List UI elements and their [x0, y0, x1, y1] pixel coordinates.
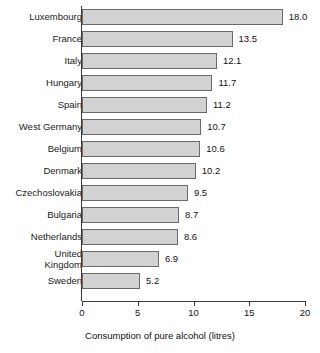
category-label-line: Kingdom [45, 260, 83, 271]
category-label: Italy [0, 50, 82, 72]
bar-value-label: 10.7 [207, 119, 226, 135]
bar-value-label: 12.1 [223, 53, 242, 69]
x-axis-tick-label: 0 [67, 307, 97, 318]
bar-track: 12.1 [82, 53, 320, 69]
category-label: West Germany [0, 116, 82, 138]
bar [82, 119, 201, 135]
bar [82, 229, 178, 245]
bar-track: 18.0 [82, 9, 320, 25]
bar [82, 251, 159, 267]
category-label: Denmark [0, 160, 82, 182]
bar-track: 5.2 [82, 273, 320, 289]
bar-track: 10.2 [82, 163, 320, 179]
bar-value-label: 5.2 [146, 273, 159, 289]
bar-row: West Germany10.7 [0, 116, 320, 138]
bar-row: Denmark10.2 [0, 160, 320, 182]
bar-track: 6.9 [82, 251, 320, 267]
bar-track: 10.7 [82, 119, 320, 135]
bar-row: UnitedKingdom6.9 [0, 248, 320, 270]
x-axis-tick [305, 301, 306, 306]
bar-track: 8.7 [82, 207, 320, 223]
bar-track: 10.6 [82, 141, 320, 157]
category-label: Hungary [0, 72, 82, 94]
bar [82, 9, 283, 25]
bar-value-label: 8.6 [184, 229, 197, 245]
bar-value-label: 10.2 [202, 163, 221, 179]
bar-value-label: 8.7 [185, 207, 198, 223]
x-axis-tick [138, 301, 139, 306]
bar-rows: Luxembourg18.0France13.5Italy12.1Hungary… [0, 6, 320, 292]
x-axis-tick-label: 5 [123, 307, 153, 318]
category-label: Netherlands [0, 226, 82, 248]
category-label: France [0, 28, 82, 50]
x-axis-tick [249, 301, 250, 306]
bar-value-label: 9.5 [194, 185, 207, 201]
bar-row: Bulgaria8.7 [0, 204, 320, 226]
category-label: Spain [0, 94, 82, 116]
bar-value-label: 10.6 [206, 141, 225, 157]
x-axis-tick-label: 20 [290, 307, 320, 318]
bar-track: 9.5 [82, 185, 320, 201]
bar-track: 8.6 [82, 229, 320, 245]
bar-value-label: 6.9 [165, 251, 178, 267]
x-axis-tick [82, 301, 83, 306]
x-axis-tick [194, 301, 195, 306]
bar-row: France13.5 [0, 28, 320, 50]
bar-row: Sweden5.2 [0, 270, 320, 292]
bar-value-label: 13.5 [239, 31, 258, 47]
category-label: Czechoslovakia [0, 182, 82, 204]
bar-value-label: 18.0 [289, 9, 308, 25]
category-label: Bulgaria [0, 204, 82, 226]
bar-track: 11.2 [82, 97, 320, 113]
bar-row: Hungary11.7 [0, 72, 320, 94]
bar-value-label: 11.2 [213, 97, 231, 113]
bar [82, 273, 140, 289]
x-axis-title: Consumption of pure alcohol (litres) [0, 330, 320, 341]
bar [82, 53, 217, 69]
bar-track: 13.5 [82, 31, 320, 47]
x-axis-tick-label: 15 [234, 307, 264, 318]
category-label: Belgium [0, 138, 82, 160]
bar [82, 141, 200, 157]
bar [82, 31, 233, 47]
category-label: Luxembourg [0, 6, 82, 28]
category-label-line: United [55, 249, 82, 260]
bar [82, 97, 207, 113]
bar-row: Belgium10.6 [0, 138, 320, 160]
bar-row: Spain11.2 [0, 94, 320, 116]
bar [82, 163, 196, 179]
bar [82, 75, 212, 91]
category-label: UnitedKingdom [0, 248, 82, 270]
category-label: Sweden [0, 270, 82, 292]
alcohol-consumption-bar-chart: Luxembourg18.0France13.5Italy12.1Hungary… [0, 0, 320, 353]
bar-row: Italy12.1 [0, 50, 320, 72]
bar-row: Luxembourg18.0 [0, 6, 320, 28]
bar-row: Czechoslovakia9.5 [0, 182, 320, 204]
bar-value-label: 11.7 [218, 75, 236, 91]
bar [82, 185, 188, 201]
y-axis-line [81, 6, 82, 301]
x-axis-tick-label: 10 [179, 307, 209, 318]
bar-row: Netherlands8.6 [0, 226, 320, 248]
bar-track: 11.7 [82, 75, 320, 91]
bar [82, 207, 179, 223]
